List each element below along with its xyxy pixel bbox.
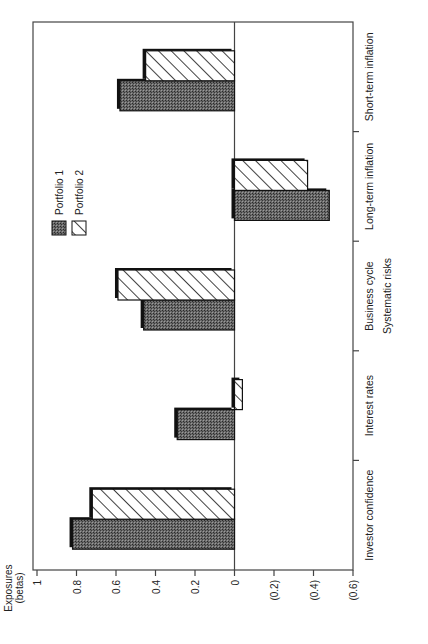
legend-label: Portfolio 2 — [74, 170, 85, 215]
bar-portfolio-1 — [73, 519, 235, 549]
legend-label: Portfolio 1 — [54, 170, 65, 215]
bar-portfolio-2 — [235, 160, 308, 190]
y-tick-label: (0.6) — [348, 580, 359, 601]
bar-portfolio-2 — [118, 270, 235, 300]
bar-portfolio-1 — [144, 300, 235, 330]
svg-text:Exposures: Exposures — [3, 564, 14, 611]
y-tick-label: 0.8 — [72, 580, 83, 594]
bar-portfolio-2 — [235, 380, 243, 410]
category-axis: Investor confidenceInterest ratesBusines… — [353, 32, 375, 560]
x-axis-title: Systematic risks — [381, 258, 393, 334]
category-label: Long-term inflation — [363, 143, 375, 230]
category-label: Short-term inflation — [363, 32, 375, 121]
y-axis-title: Exposures(betas) — [3, 564, 25, 611]
y-tick-label: (0.2) — [269, 580, 280, 601]
svg-text:(betas): (betas) — [14, 572, 25, 603]
bar-portfolio-2 — [92, 489, 234, 519]
legend-swatch — [52, 221, 66, 235]
category-label: Interest rates — [363, 375, 375, 436]
exposures-bar-chart: 10.80.60.40.20(0.2)(0.4)(0.6)Exposures(b… — [0, 0, 428, 644]
category-label: Business cycle — [363, 261, 375, 331]
y-tick-label: (0.4) — [309, 580, 320, 601]
y-tick-label: 1 — [32, 580, 43, 586]
bar-portfolio-1 — [120, 81, 235, 111]
bar-portfolio-1 — [177, 410, 234, 440]
y-tick-label: 0.6 — [111, 580, 122, 594]
legend-swatch — [72, 221, 86, 235]
y-tick-label: 0.2 — [190, 580, 201, 594]
bars — [70, 49, 330, 549]
y-tick-label: 0.4 — [151, 580, 162, 594]
chart-stage: 10.80.60.40.20(0.2)(0.4)(0.6)Exposures(b… — [0, 0, 428, 644]
value-axis: 10.80.60.40.20(0.2)(0.4)(0.6) — [32, 570, 359, 601]
legend: Portfolio 1Portfolio 2 — [52, 170, 86, 235]
bar-portfolio-1 — [235, 190, 330, 220]
y-tick-label: 0 — [230, 580, 241, 586]
category-label: Investor confidence — [363, 470, 375, 561]
bar-portfolio-2 — [146, 51, 235, 81]
